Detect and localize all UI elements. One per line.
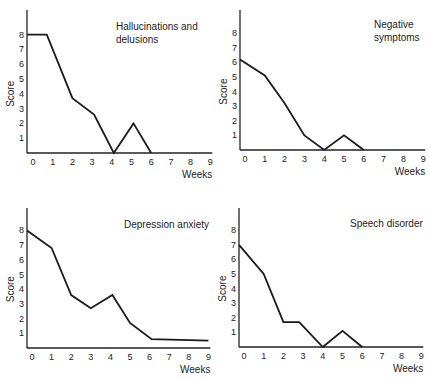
x-tick-label: 6 [361, 154, 366, 164]
y-tick-label: 7 [19, 240, 24, 250]
y-tick-label: 6 [19, 59, 24, 69]
chart-title: Hallucinations and [116, 21, 198, 32]
y-tick-label: 1 [19, 328, 24, 338]
x-axis-label: Weeks [180, 364, 210, 375]
y-tick-label: 8 [19, 225, 24, 235]
x-tick-label: 7 [379, 351, 384, 361]
x-tick-label: 3 [90, 157, 95, 167]
y-tick-label: 8 [19, 30, 24, 40]
chart-panel-3: 123456780123456789WeeksScoreDepression a… [5, 208, 211, 375]
x-tick-label: 1 [262, 154, 267, 164]
x-axis-label: Weeks [395, 166, 425, 177]
x-tick-label: 0 [242, 154, 247, 164]
data-series-line [239, 245, 362, 347]
x-tick-label: 7 [381, 154, 386, 164]
y-axis-label: Score [217, 275, 228, 302]
x-tick-label: 3 [301, 351, 306, 361]
x-tick-label: 6 [147, 352, 152, 362]
x-tick-label: 4 [108, 352, 113, 362]
x-tick-label: 7 [168, 157, 173, 167]
y-tick-label: 6 [231, 254, 236, 264]
x-tick-label: 8 [401, 154, 406, 164]
x-tick-label: 9 [419, 351, 424, 361]
y-axis-label: Score [218, 78, 229, 105]
x-tick-label: 2 [282, 154, 287, 164]
chart-panel-4: 123456780123456789WeeksScoreSpeech disor… [217, 208, 424, 374]
y-tick-label: 8 [232, 28, 237, 38]
y-tick-label: 1 [232, 130, 237, 140]
x-tick-label: 5 [127, 352, 132, 362]
x-tick-label: 3 [302, 154, 307, 164]
y-tick-label: 7 [231, 240, 236, 250]
x-tick-label: 0 [30, 157, 35, 167]
x-tick-label: 3 [88, 352, 93, 362]
x-tick-label: 6 [149, 157, 154, 167]
data-series-line [27, 230, 208, 340]
data-series-line [240, 60, 364, 151]
x-tick-label: 1 [261, 351, 266, 361]
y-tick-label: 5 [232, 72, 237, 82]
chart-title: symptoms [374, 32, 420, 43]
y-tick-label: 6 [19, 255, 24, 265]
y-tick-label: 4 [232, 87, 237, 97]
x-tick-label: 4 [320, 351, 325, 361]
data-series-line [27, 35, 151, 153]
y-tick-label: 4 [19, 284, 24, 294]
chart-title: Speech disorder [350, 218, 423, 229]
x-tick-label: 7 [167, 352, 172, 362]
chart-panel-1: 123456780123456789WeeksScoreHallucinatio… [5, 10, 213, 180]
y-tick-label: 1 [231, 327, 236, 337]
x-tick-label: 2 [69, 352, 74, 362]
x-tick-label: 5 [129, 157, 134, 167]
y-tick-label: 2 [19, 314, 24, 324]
y-tick-label: 5 [231, 269, 236, 279]
y-axis-label: Score [5, 276, 16, 303]
x-tick-label: 9 [206, 352, 211, 362]
y-tick-label: 6 [232, 57, 237, 67]
y-tick-label: 2 [232, 116, 237, 126]
chart-title: Negative [374, 19, 414, 30]
y-tick-label: 4 [19, 89, 24, 99]
y-tick-label: 3 [232, 101, 237, 111]
x-tick-label: 4 [322, 154, 327, 164]
y-tick-label: 5 [19, 270, 24, 280]
y-tick-label: 2 [231, 313, 236, 323]
y-tick-label: 5 [19, 74, 24, 84]
y-tick-label: 3 [19, 104, 24, 114]
x-tick-label: 9 [421, 154, 426, 164]
y-tick-label: 3 [231, 298, 236, 308]
y-tick-label: 3 [19, 299, 24, 309]
chart-title: Depression anxiety [124, 219, 209, 230]
x-tick-label: 8 [186, 352, 191, 362]
x-tick-label: 6 [360, 351, 365, 361]
x-tick-label: 0 [241, 351, 246, 361]
x-tick-label: 9 [208, 157, 213, 167]
y-tick-label: 7 [232, 43, 237, 53]
y-tick-label: 4 [231, 284, 236, 294]
x-axis-label: Weeks [393, 363, 423, 374]
x-tick-label: 8 [188, 157, 193, 167]
x-tick-label: 2 [70, 157, 75, 167]
y-tick-label: 1 [19, 133, 24, 143]
x-tick-label: 8 [399, 351, 404, 361]
y-tick-label: 2 [19, 118, 24, 128]
chart-panel-2: 123456780123456789WeeksScoreNegativesymp… [218, 10, 426, 177]
y-axis-label: Score [5, 80, 16, 107]
x-tick-label: 5 [341, 154, 346, 164]
chart-title: delusions [116, 34, 158, 45]
x-axis-label: Weeks [182, 169, 212, 180]
y-tick-label: 8 [231, 225, 236, 235]
x-tick-label: 1 [50, 157, 55, 167]
y-tick-label: 7 [19, 44, 24, 54]
x-tick-label: 5 [340, 351, 345, 361]
chart-grid: 123456780123456789WeeksScoreHallucinatio… [0, 0, 430, 382]
x-tick-label: 0 [29, 352, 34, 362]
x-tick-label: 4 [109, 157, 114, 167]
x-tick-label: 2 [281, 351, 286, 361]
x-tick-label: 1 [49, 352, 54, 362]
